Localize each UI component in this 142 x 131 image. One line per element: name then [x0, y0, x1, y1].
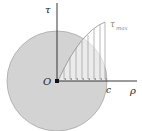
radius-label: c	[106, 85, 111, 95]
origin-point	[55, 79, 59, 83]
origin-label: O	[43, 76, 51, 87]
shear-stress-diagram: τ O c ρ τ max	[0, 0, 142, 131]
tau-axis-label: τ	[45, 4, 51, 15]
rho-axis-label: ρ	[129, 85, 136, 96]
tau-max-subscript: max	[116, 25, 128, 31]
